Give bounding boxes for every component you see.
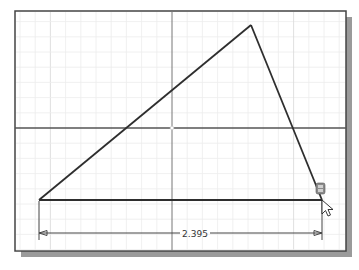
coincident-constraint-icon[interactable]: [316, 183, 325, 194]
origin-point[interactable]: [170, 126, 174, 130]
dimension-value[interactable]: 2.395: [182, 229, 208, 239]
sketch-canvas[interactable]: 2.395: [0, 0, 359, 270]
sketch-viewport[interactable]: 2.395: [0, 0, 359, 270]
sketch-frame: [15, 11, 346, 251]
